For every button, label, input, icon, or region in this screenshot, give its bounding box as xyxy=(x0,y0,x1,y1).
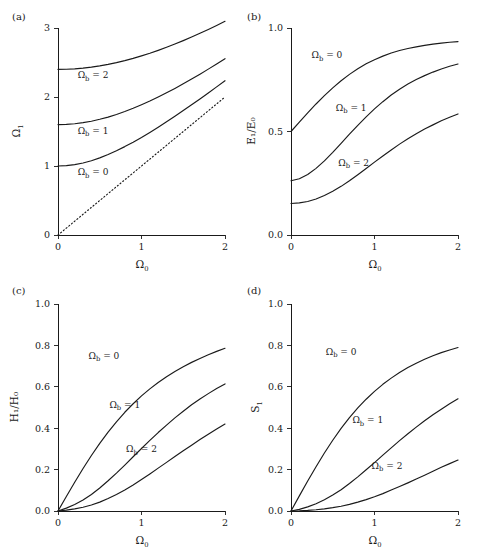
panel-d-xtick-label: 1 xyxy=(371,517,377,528)
panel-a-ytick-label: 1 xyxy=(44,160,50,171)
panel-c-ytick-label: 0.4 xyxy=(35,423,50,434)
panel-a-ylabel: Ω1 xyxy=(10,124,25,137)
panel-d-ytick-label: 0.6 xyxy=(268,381,283,392)
panel-d-series-label: Ωb = 0 xyxy=(326,347,357,360)
panel-b: (b)0.00.51.0012Ωb = 0Ωb = 1Ωb = 2E₁/E₀Ω0 xyxy=(239,0,479,285)
panel-a-ytick-label: 3 xyxy=(44,22,50,33)
panel-a-ytick-label: 0 xyxy=(44,229,50,240)
panel-d-xtick-label: 0 xyxy=(288,517,294,528)
panel-a: (a)0123012Ωb = 0Ωb = 1Ωb = 2Ω1Ω0 xyxy=(0,0,240,285)
panel-b-plot: (b)0.00.51.0012Ωb = 0Ωb = 1Ωb = 2E₁/E₀Ω0 xyxy=(239,0,479,285)
panel-c: (c)0.00.20.40.60.81.0012Ωb = 0Ωb = 1Ωb =… xyxy=(0,276,240,559)
panel-d-axes xyxy=(291,304,458,511)
panel-b-curve-1 xyxy=(291,64,458,181)
panel-a-series-label: Ωb = 2 xyxy=(78,70,109,83)
panel-b-series-label: Ωb = 1 xyxy=(336,103,367,116)
panel-d-xlabel: Ω0 xyxy=(368,534,381,549)
panel-c-xlabel: Ω0 xyxy=(135,534,148,549)
panel-d-curve-0 xyxy=(291,347,458,511)
panel-c-ylabel: H₁/H₀ xyxy=(8,392,20,422)
panel-b-ylabel: E₁/E₀ xyxy=(245,117,257,144)
panel-a-xtick-label: 1 xyxy=(138,241,144,252)
panel-c-ytick-label: 0.8 xyxy=(35,340,50,351)
panel-c-ytick-label: 1.0 xyxy=(35,298,50,309)
panel-d-series-label: Ωb = 2 xyxy=(372,461,403,474)
panel-d-series-label: Ωb = 1 xyxy=(352,415,383,428)
panel-b-xtick-label: 0 xyxy=(288,241,294,252)
panel-c-tag: (c) xyxy=(12,285,26,296)
panel-d-ytick-label: 1.0 xyxy=(268,298,283,309)
panel-b-xlabel: Ω0 xyxy=(368,258,381,273)
panel-c-xtick-label: 0 xyxy=(55,517,61,528)
panel-a-curve-0 xyxy=(58,81,225,166)
panel-a-xlabel: Ω0 xyxy=(135,258,148,273)
panel-a-curve-2 xyxy=(58,21,225,69)
panel-c-curve-0 xyxy=(58,348,225,511)
panel-b-tag: (b) xyxy=(247,11,261,22)
panel-b-ytick-label: 0.5 xyxy=(268,126,283,137)
panel-b-series-label: Ωb = 2 xyxy=(338,158,369,171)
panel-a-plot: (a)0123012Ωb = 0Ωb = 1Ωb = 2Ω1Ω0 xyxy=(0,0,240,285)
panel-c-series-label: Ωb = 2 xyxy=(126,444,157,457)
panel-c-xtick-label: 2 xyxy=(222,517,228,528)
panel-b-xtick-label: 1 xyxy=(371,241,377,252)
panel-d-ylabel: S1 xyxy=(249,401,264,413)
panel-d-ytick-label: 0.2 xyxy=(268,464,283,475)
panel-c-xtick-label: 1 xyxy=(138,517,144,528)
panel-c-ytick-label: 0.0 xyxy=(35,505,50,516)
panel-d-xtick-label: 2 xyxy=(455,517,461,528)
panel-b-series-label: Ωb = 0 xyxy=(311,50,342,63)
panel-d: (d)0.00.20.40.60.81.0012Ωb = 0Ωb = 1Ωb =… xyxy=(239,276,479,559)
panel-a-tag: (a) xyxy=(12,11,26,22)
panel-b-curve-2 xyxy=(291,114,458,204)
panel-b-ytick-label: 1.0 xyxy=(268,22,283,33)
panel-d-tag: (d) xyxy=(247,285,261,296)
panel-d-ytick-label: 0.4 xyxy=(268,423,283,434)
panel-b-ytick-label: 0.0 xyxy=(268,229,283,240)
panel-d-plot: (d)0.00.20.40.60.81.0012Ωb = 0Ωb = 1Ωb =… xyxy=(239,276,479,559)
panel-a-ytick-label: 2 xyxy=(44,91,50,102)
panel-a-xtick-label: 0 xyxy=(55,241,61,252)
panel-c-ytick-label: 0.6 xyxy=(35,381,50,392)
panel-c-plot: (c)0.00.20.40.60.81.0012Ωb = 0Ωb = 1Ωb =… xyxy=(0,276,240,559)
panel-a-xtick-label: 2 xyxy=(222,241,228,252)
panel-b-xtick-label: 2 xyxy=(455,241,461,252)
panel-c-series-label: Ωb = 1 xyxy=(109,400,140,413)
panel-a-series-label: Ωb = 1 xyxy=(78,126,109,139)
figure-canvas: (a)0123012Ωb = 0Ωb = 1Ωb = 2Ω1Ω0 (b)0.00… xyxy=(0,0,479,559)
panel-c-ytick-label: 0.2 xyxy=(35,464,50,475)
panel-a-series-label: Ωb = 0 xyxy=(78,167,109,180)
panel-d-ytick-label: 0.0 xyxy=(268,505,283,516)
panel-d-ytick-label: 0.8 xyxy=(268,340,283,351)
panel-c-series-label: Ωb = 0 xyxy=(89,351,120,364)
